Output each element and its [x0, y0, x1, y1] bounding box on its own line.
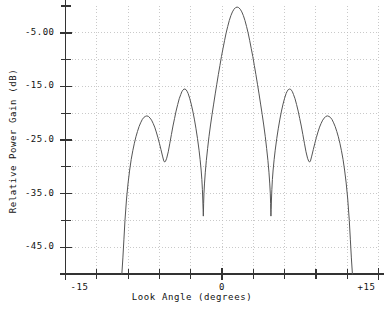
data-curve	[122, 7, 353, 274]
axis-lines	[60, 0, 384, 274]
x-axis-title: Look Angle (degrees)	[0, 292, 384, 302]
y-axis-title: Relative Power Gain (dB)	[8, 66, 18, 216]
x-tick-label: +15	[347, 282, 384, 292]
grid-lines	[66, 6, 379, 274]
tick-marks	[60, 6, 379, 280]
chart-container: -5.00-15.0-25.0-35.0-45.0-150+15 Relativ…	[0, 0, 384, 313]
y-tick-label: -5.00	[0, 27, 55, 37]
x-tick-label: -15	[60, 282, 100, 292]
x-tick-label: 0	[202, 282, 242, 292]
y-tick-label: -45.0	[0, 241, 55, 251]
radiation-pattern-plot	[0, 0, 384, 313]
